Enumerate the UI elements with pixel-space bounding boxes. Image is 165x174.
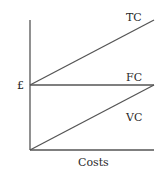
fc-label: FC [126, 71, 142, 84]
vc-label: VC [125, 111, 142, 124]
y-axis-label: £ [17, 79, 24, 92]
cost-diagram: £ Costs TC FC VC [0, 0, 165, 174]
tc-label: TC [126, 11, 142, 24]
x-axis-label: Costs [78, 156, 109, 169]
